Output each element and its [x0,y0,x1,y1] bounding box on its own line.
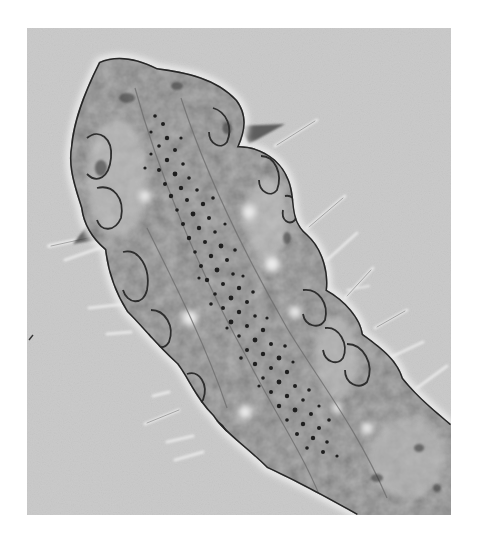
micrograph-photo [27,28,451,515]
organism-illustration [27,28,451,515]
page: micrograph of segmented worm anterior bo… [0,0,477,544]
